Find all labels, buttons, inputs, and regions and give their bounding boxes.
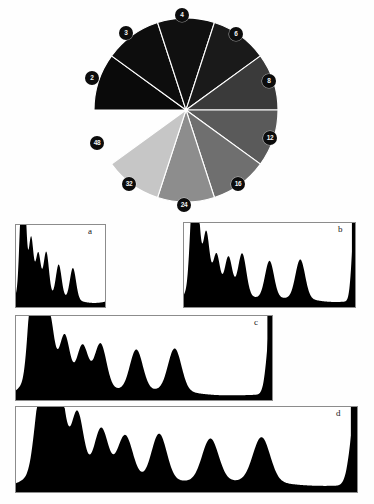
wheel-sector-label-8: 8 (262, 74, 276, 88)
histogram-c-saturation-spike (267, 316, 272, 400)
histogram-b-saturation-spike (352, 223, 355, 307)
wheel-sector-label-2: 2 (85, 71, 99, 85)
panel-label-c: c (254, 318, 258, 327)
histogram-d-plot (16, 407, 357, 492)
histogram-a-plot (16, 225, 105, 307)
histogram-b-area (184, 223, 355, 307)
histogram-panel-c (15, 315, 273, 401)
wheel-sector-label-3: 3 (119, 26, 133, 40)
wheel-sector-label-48: 48 (90, 136, 104, 150)
wheel-sector-label-12: 12 (263, 131, 277, 145)
histogram-c-area (16, 316, 272, 400)
wheel-sector-label-6: 6 (229, 27, 243, 41)
panel-label-a: a (88, 227, 92, 236)
panel-label-b: b (338, 225, 343, 234)
panel-label-d: d (336, 409, 341, 418)
wheel-sector-label-4: 4 (175, 8, 189, 22)
histogram-d-saturation-spike (351, 407, 357, 492)
histogram-b-plot (184, 223, 355, 307)
figure-canvas: 234681216243248 a b c d (0, 0, 374, 504)
wheel-sector-label-32: 32 (122, 177, 136, 191)
histogram-panel-a (15, 224, 106, 308)
wheel-svg (0, 0, 374, 215)
histogram-panel-b (183, 222, 356, 308)
wheel-sector-label-24: 24 (177, 198, 191, 212)
histogram-d-area (16, 407, 357, 492)
histogram-c-plot (16, 316, 272, 400)
wheel-sector-label-16: 16 (231, 177, 245, 191)
histogram-panel-d (15, 406, 358, 493)
grayscale-sector-wheel: 234681216243248 (0, 0, 374, 215)
histogram-a-area (16, 225, 105, 307)
